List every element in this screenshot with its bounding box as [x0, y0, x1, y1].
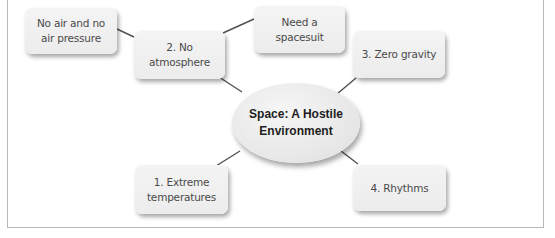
node-label: 1. Extreme temperatures: [139, 175, 224, 205]
node-rhythms: 4. Rhythms: [353, 165, 446, 211]
connector-center-rhythms: [341, 151, 358, 164]
connector-center-gravity: [337, 78, 356, 94]
node-extreme-temperatures: 1. Extreme temperatures: [135, 165, 228, 214]
connector-air-atmosphere: [117, 29, 134, 37]
connector-center-temperatures: [216, 151, 240, 166]
connector-atmosphere-center: [219, 77, 242, 92]
central-topic-node: Space: A Hostile Environment: [232, 83, 360, 163]
node-no-air-pressure: No air and no air pressure: [25, 8, 117, 54]
connector-atmosphere-spacesuit: [223, 19, 254, 33]
central-topic-label: Space: A Hostile Environment: [244, 106, 348, 140]
node-label: 3. Zero gravity: [362, 47, 437, 62]
node-no-atmosphere: 2. No atmosphere: [134, 31, 225, 79]
node-label: No air and no air pressure: [29, 16, 113, 46]
node-label: 2. No atmosphere: [138, 40, 221, 70]
node-need-spacesuit: Need a spacesuit: [254, 6, 345, 53]
node-label: Need a spacesuit: [258, 15, 341, 45]
node-label: 4. Rhythms: [371, 181, 429, 196]
node-zero-gravity: 3. Zero gravity: [353, 31, 445, 78]
